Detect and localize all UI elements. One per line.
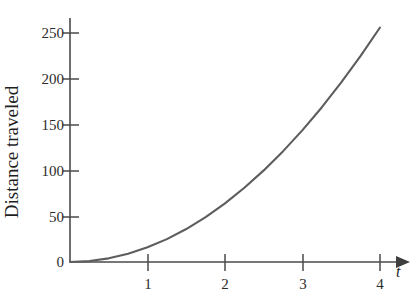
y-tick-label-50: 50	[20, 210, 64, 225]
x-tick-label-3: 3	[299, 277, 307, 292]
x-tick-label-2: 2	[221, 277, 229, 292]
x-axis-label: t	[396, 264, 400, 280]
x-tick-label-4: 4	[376, 277, 384, 292]
x-tick-label-1: 1	[144, 277, 152, 292]
y-tick-label-0: 0	[20, 255, 64, 270]
y-axis-label: Distance traveled	[2, 37, 21, 267]
y-tick-label-100: 100	[20, 164, 64, 179]
y-tick-label-200: 200	[20, 72, 64, 87]
distance-curve	[70, 28, 380, 263]
distance-traveled-chart: 0 50 100 150 200 250 1 2 3 4 Distance tr…	[0, 0, 411, 308]
y-tick-label-250: 250	[20, 26, 64, 41]
y-tick-label-150: 150	[20, 118, 64, 133]
